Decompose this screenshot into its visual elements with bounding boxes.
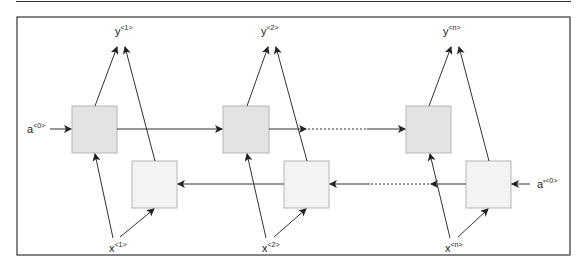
forward-cell-2 — [223, 106, 269, 153]
arrow-xn-to-backward-n — [458, 209, 488, 237]
label-xn: x<n> — [445, 241, 463, 254]
arrow-backward-1-to-y1 — [125, 47, 155, 161]
label-y1: y<1> — [115, 24, 133, 37]
forward-cell-n — [406, 106, 451, 153]
backward-cell-n — [466, 161, 511, 208]
arrow-forward-2-to-y2 — [247, 47, 268, 106]
backward-cell-1 — [132, 161, 177, 208]
arrow-backward-n-to-yn — [459, 47, 489, 161]
label-y2: y<2> — [261, 24, 279, 37]
arrow-x2-to-forward-2 — [247, 154, 266, 238]
arrow-x1-to-forward-1 — [95, 154, 113, 238]
arrow-x2-to-backward-2 — [274, 209, 306, 237]
label-x1: x<1> — [109, 241, 127, 254]
label-a0: a<0> — [27, 122, 45, 135]
label-a0-prime: a'<0> — [537, 177, 557, 190]
arrow-forward-1-to-y1 — [95, 47, 117, 106]
arrow-xn-to-forward-n — [430, 154, 450, 238]
label-yn: y<n> — [443, 24, 461, 37]
arrow-backward-2-to-y2 — [276, 47, 307, 161]
birnn-diagram: y<1> y<2> y<n> x<1> x<2> x<n> a<0> a'<0> — [0, 0, 581, 273]
backward-cell-2 — [284, 161, 329, 208]
arrow-forward-n-to-yn — [429, 47, 451, 106]
label-x2: x<2> — [262, 241, 280, 254]
arrow-x1-to-backward-1 — [120, 209, 154, 237]
forward-cell-1 — [72, 106, 117, 153]
